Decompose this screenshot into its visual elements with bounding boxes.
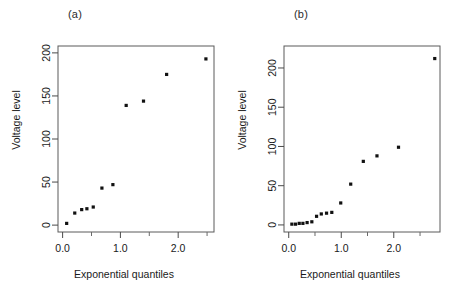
panel-b-data-point	[339, 201, 342, 204]
panel-b-data-point	[290, 223, 293, 226]
panel-a-x-axis-title: Exponential quantiles	[0, 268, 226, 280]
panel-b-y-tick-label: 100	[266, 138, 278, 156]
panel-b-data-point	[325, 212, 328, 215]
panel-a-x-tick-label: 1.0	[113, 242, 128, 254]
panel-b-data-point	[397, 146, 400, 149]
panel-a-data-point	[111, 183, 114, 186]
panel-a-data-point	[92, 205, 95, 208]
panel-b-data-point	[315, 215, 318, 218]
panel-b-data-point	[306, 221, 309, 224]
panel-b-data-point	[375, 154, 378, 157]
figure-panels: (a) Voltage level 0.01.02.0050100150200 …	[0, 0, 452, 300]
panel-a-data-point	[204, 57, 207, 60]
panel-b-y-tick-label: 200	[266, 59, 278, 77]
panel-b-data-point	[320, 212, 323, 215]
panel-b-data-point	[301, 222, 304, 225]
panel-a-data-point	[125, 104, 128, 107]
panel-b-data-point	[298, 222, 301, 225]
panel-b-data-point	[294, 223, 297, 226]
panel-a-y-tick-label: 0	[40, 222, 52, 228]
panel-a-y-tick-label: 100	[40, 130, 52, 148]
panel-b-plot-area: Voltage level 0.01.02.0050100150200 Expo…	[226, 0, 452, 300]
panel-b-data-point	[349, 183, 352, 186]
panel-b-x-axis-title: Exponential quantiles	[226, 268, 452, 280]
panel-b-data-point	[310, 220, 313, 223]
panel-b-data-point	[362, 160, 365, 163]
panel-a-data-point	[80, 208, 83, 211]
panel-b-data-point	[330, 211, 333, 214]
panel-b-x-axis-title-text: Exponential quantiles	[278, 268, 400, 280]
panel-a-data-point	[73, 211, 76, 214]
panel-a-data-point	[85, 207, 88, 210]
panel-a-y-tick-label: 200	[40, 44, 52, 62]
panel-a-y-tick-label: 50	[40, 176, 52, 188]
panel-a-data-point	[100, 186, 103, 189]
panel-a-x-tick-label: 0.0	[55, 242, 70, 254]
panel-a-data-point	[142, 100, 145, 103]
panel-b-scatter-svg: 0.01.02.0050100150200	[226, 0, 452, 300]
panel-b-y-tick-label: 50	[266, 180, 278, 192]
panel-b-x-tick-label: 0.0	[281, 242, 296, 254]
panel-b: (b) Voltage level 0.01.02.0050100150200 …	[226, 0, 452, 300]
panel-b-x-tick-label: 1.0	[334, 242, 349, 254]
panel-b-data-point	[433, 57, 436, 60]
panel-a: (a) Voltage level 0.01.02.0050100150200 …	[0, 0, 226, 300]
panel-a-x-tick-label: 2.0	[171, 242, 186, 254]
panel-b-y-tick-label: 150	[266, 98, 278, 116]
panel-a-plot-area: Voltage level 0.01.02.0050100150200 Expo…	[0, 0, 226, 300]
panel-b-y-tick-label: 0	[266, 222, 278, 228]
panel-a-plot-frame	[58, 46, 214, 232]
panel-a-scatter-svg: 0.01.02.0050100150200	[0, 0, 226, 300]
panel-a-data-point	[65, 222, 68, 225]
panel-a-x-axis-title-text: Exponential quantiles	[52, 268, 174, 280]
panel-b-x-tick-label: 2.0	[386, 242, 401, 254]
panel-a-y-tick-label: 150	[40, 87, 52, 105]
panel-b-plot-frame	[284, 46, 440, 232]
panel-a-data-point	[165, 73, 168, 76]
